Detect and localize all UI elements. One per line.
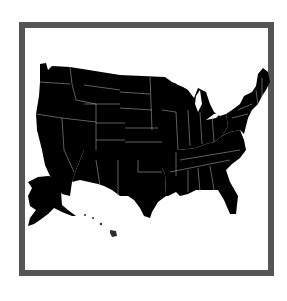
state-hawaii [84, 214, 117, 237]
region-southwest [72, 150, 166, 218]
us-map [0, 0, 287, 301]
region-northeast [222, 68, 270, 136]
